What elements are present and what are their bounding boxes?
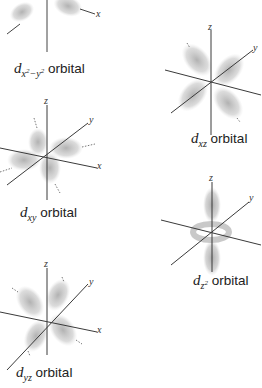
orbital-symbol: d	[193, 272, 201, 288]
x-axis-label: x	[97, 160, 101, 171]
x-axis-label: x	[97, 324, 101, 335]
dz2-orbital-label: dz2 orbital	[193, 272, 248, 291]
subscript: xz	[199, 138, 207, 149]
z-axis-label: z	[209, 172, 213, 183]
z-axis-label: z	[208, 21, 212, 32]
dxy-orbital-label: dxy orbital	[20, 204, 77, 223]
dxz-orbital-drawing	[131, 0, 262, 150]
dxz-orbital-panel: z y dxz orbital	[131, 0, 262, 150]
dyz-orbital-panel: z y x dyz orbital	[0, 240, 131, 388]
orbital-word: orbital	[36, 365, 73, 380]
orbital-word: orbital	[211, 131, 248, 146]
dz2-orbital-drawing	[131, 150, 262, 290]
z-axis-label: z	[44, 258, 48, 269]
orbital-word: orbital	[40, 205, 77, 220]
y-axis-label: y	[89, 114, 93, 125]
orbital-word: orbital	[212, 273, 249, 288]
dz2-orbital-panel: z y dz2 orbital	[131, 150, 262, 290]
orbital-symbol: d	[191, 130, 199, 146]
orbital-symbol: d	[16, 364, 24, 380]
dyz-orbital-label: dyz orbital	[16, 364, 72, 383]
y-axis-label: y	[249, 192, 253, 203]
subscript: −y	[29, 68, 40, 79]
orbital-symbol: d	[14, 60, 22, 76]
orbital-symbol: d	[20, 204, 28, 220]
subscript: yz	[24, 372, 32, 383]
dx2-y2-orbital-panel: x dx2−y2 orbital	[0, 0, 131, 90]
subscript: xy	[28, 212, 37, 223]
y-axis-label: y	[89, 276, 93, 287]
superscript: 2	[204, 278, 208, 286]
dxy-orbital-panel: z y x dxy orbital	[0, 90, 131, 240]
dxz-orbital-label: dxz orbital	[191, 130, 247, 149]
dx2-y2-orbital-label: dx2−y2 orbital	[14, 60, 85, 79]
x-axis-label: x	[96, 8, 100, 19]
orbital-word: orbital	[48, 61, 85, 76]
z-axis-label: z	[44, 95, 48, 106]
y-axis-label: y	[253, 42, 257, 53]
superscript: 2	[41, 66, 45, 74]
